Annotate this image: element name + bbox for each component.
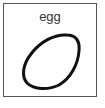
picture-card: egg (3, 3, 97, 97)
egg-icon (4, 4, 98, 98)
